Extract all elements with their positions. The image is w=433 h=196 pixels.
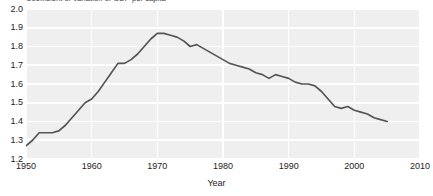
x-axis-tick-label: 1970 <box>137 161 177 171</box>
x-axis: 1950196019701980199020002010 <box>26 161 420 175</box>
y-axis-tick-label: 1.7 <box>0 61 23 70</box>
x-axis-tick-label: 1960 <box>72 161 112 171</box>
y-axis: 2.01.91.81.71.61.51.41.31.2 <box>0 9 23 159</box>
chart-title: Coefficient of variation of GDP per capi… <box>26 0 166 3</box>
y-axis-tick-label: 1.5 <box>0 98 23 107</box>
x-axis-tick-label: 1990 <box>269 161 309 171</box>
x-axis-tick-label: 2010 <box>400 161 433 171</box>
y-axis-tick-label: 1.8 <box>0 42 23 51</box>
x-axis-title: Year <box>0 178 433 188</box>
x-axis-tick-label: 2000 <box>334 161 374 171</box>
x-axis-tick-label: 1950 <box>6 161 46 171</box>
series-line-coefficient-of-variation <box>26 9 420 159</box>
y-axis-tick-label: 1.4 <box>0 117 23 126</box>
y-axis-tick-label: 1.9 <box>0 23 23 32</box>
x-axis-tick-label: 1980 <box>203 161 243 171</box>
chart-container: Coefficient of variation of GDP per capi… <box>0 0 433 196</box>
y-axis-tick-label: 1.3 <box>0 136 23 145</box>
y-axis-tick-label: 1.6 <box>0 80 23 89</box>
y-axis-tick-label: 2.0 <box>0 5 23 14</box>
plot-area <box>26 9 420 159</box>
